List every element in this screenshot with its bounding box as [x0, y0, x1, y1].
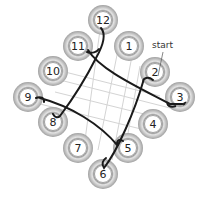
ring-3: 3	[165, 82, 195, 112]
start-label: start	[152, 40, 173, 50]
ring-number: 12	[96, 14, 110, 27]
ring-number: 9	[25, 91, 32, 104]
ring-7: 7	[63, 133, 93, 163]
background-grid	[40, 30, 170, 160]
ring-1: 1	[114, 31, 144, 61]
knot-diagram: 121112103948576 start	[0, 0, 204, 208]
ring-11: 11	[63, 31, 93, 61]
ring-number: 5	[125, 142, 132, 155]
ring-10: 10	[38, 56, 68, 86]
ring-number: 4	[150, 118, 157, 131]
ring-number: 3	[177, 91, 184, 104]
ring-number: 10	[46, 65, 60, 78]
ring-4: 4	[138, 109, 168, 139]
ring-number: 7	[75, 142, 82, 155]
ring-number: 2	[152, 66, 159, 79]
ring-number: 1	[126, 40, 133, 53]
ring-number: 11	[71, 40, 85, 53]
ring-number: 6	[100, 168, 107, 181]
ring-2: 2	[140, 57, 170, 87]
